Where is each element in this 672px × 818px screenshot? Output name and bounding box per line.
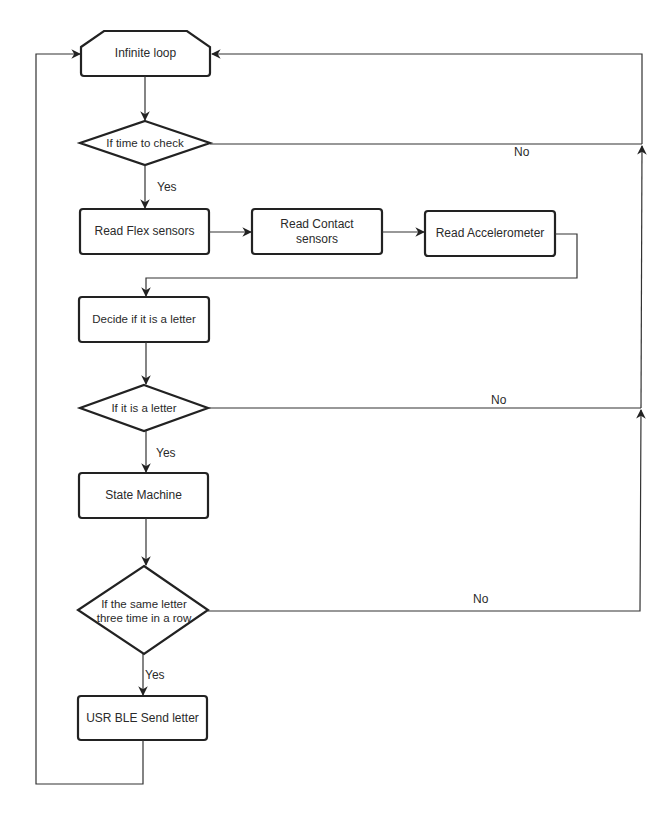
infinite-loop-label: Infinite loop xyxy=(81,31,210,76)
edge-same-no xyxy=(208,410,641,611)
read-flex-label: Read Flex sensors xyxy=(80,209,209,254)
state-machine-label: State Machine xyxy=(79,473,208,518)
time-check-label: If time to check xyxy=(90,133,200,153)
same-letter-label: If the same letter three time in a row xyxy=(88,594,200,628)
same-yes-label: Yes xyxy=(145,668,165,682)
check-no-label: No xyxy=(514,145,529,159)
read-accelerometer-label: Read Accelerometer xyxy=(425,211,555,256)
same-no-label: No xyxy=(473,592,488,606)
read-contact-label: Read Contact sensors xyxy=(272,209,362,254)
isletter-yes-label: Yes xyxy=(156,446,176,460)
send-letter-label: USR BLE Send letter xyxy=(78,696,207,740)
edge-right-return xyxy=(212,54,642,144)
isletter-no-label: No xyxy=(491,393,506,407)
check-yes-label: Yes xyxy=(157,180,177,194)
decide-letter-label: Decide if it is a letter xyxy=(79,297,209,342)
is-letter-label: If it is a letter xyxy=(92,398,196,418)
edge-isletter-no-up xyxy=(641,146,642,408)
